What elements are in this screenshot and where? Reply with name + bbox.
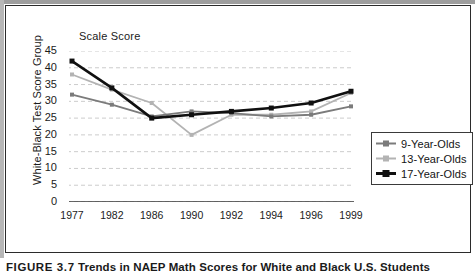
- series-marker: [229, 109, 234, 114]
- x-tick-label: 1999: [334, 210, 368, 221]
- series-marker: [109, 85, 114, 90]
- scan-edge-left: [0, 0, 4, 258]
- series-marker: [190, 133, 194, 137]
- y-tick-label: 30: [35, 95, 57, 106]
- y-tick-label: 20: [35, 129, 57, 140]
- x-tick-label: 1982: [95, 210, 129, 221]
- figure-caption-number: FIGURE 3.7: [6, 261, 75, 273]
- legend-marker-17-year-olds: [375, 168, 397, 179]
- chart-legend: 9-Year-Olds 13-Year-Olds 17-Year-Olds: [371, 132, 473, 185]
- series-marker: [189, 112, 194, 117]
- series-marker: [309, 101, 314, 106]
- figure-container: Scale Score White-Black Test Score Group…: [0, 0, 475, 275]
- legend-label-9-year-olds: 9-Year-Olds: [401, 138, 460, 150]
- series-marker: [150, 101, 154, 105]
- series-marker: [349, 89, 354, 94]
- x-tick-label: 1992: [214, 210, 248, 221]
- x-tick-label: 1977: [55, 210, 89, 221]
- series-marker: [309, 113, 313, 117]
- series-marker: [70, 93, 74, 97]
- figure-caption-text: Trends in NAEP Math Scores for White and…: [78, 261, 430, 273]
- figure-caption: FIGURE 3.7 Trends in NAEP Math Scores fo…: [6, 261, 475, 273]
- scan-edge-top: [0, 0, 475, 4]
- x-tick-label: 1990: [175, 210, 209, 221]
- x-tick-label: 1986: [135, 210, 169, 221]
- y-tick-label: 25: [35, 112, 57, 123]
- y-tick-label: 5: [35, 179, 57, 190]
- series-marker: [269, 106, 274, 111]
- series-marker: [269, 114, 273, 118]
- legend-item-17-year-olds: 17-Year-Olds: [375, 166, 467, 181]
- series-marker: [110, 103, 114, 107]
- y-tick-label: 0: [35, 196, 57, 207]
- y-tick-label: 45: [35, 45, 57, 56]
- series-marker: [149, 116, 154, 121]
- legend-item-13-year-olds: 13-Year-Olds: [375, 151, 467, 166]
- series-marker: [70, 59, 75, 64]
- legend-label-17-year-olds: 17-Year-Olds: [401, 168, 467, 180]
- legend-marker-13-year-olds: [375, 153, 397, 164]
- scale-score-axis-note: Scale Score: [79, 30, 141, 42]
- plot-area: [69, 51, 354, 202]
- legend-item-9-year-olds: 9-Year-Olds: [375, 136, 467, 151]
- y-tick-label: 15: [35, 146, 57, 157]
- y-tick-label: 40: [35, 62, 57, 73]
- x-tick-label: 1994: [254, 210, 288, 221]
- legend-label-13-year-olds: 13-Year-Olds: [401, 153, 467, 165]
- chart-plot-svg: [69, 51, 354, 202]
- legend-marker-9-year-olds: [375, 138, 397, 149]
- y-tick-label: 10: [35, 162, 57, 173]
- series-marker: [70, 72, 74, 76]
- chart-frame: Scale Score White-Black Test Score Group…: [5, 5, 471, 253]
- x-tick-label: 1996: [294, 210, 328, 221]
- y-tick-label: 35: [35, 79, 57, 90]
- series-marker: [349, 104, 353, 108]
